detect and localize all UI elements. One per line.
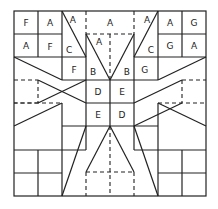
piece-label: A: [47, 18, 54, 28]
quilt-block-diagram: FAAFACAAACAGGAFBBGDEED: [0, 0, 218, 209]
piece-label: D: [119, 110, 126, 120]
piece-label: G: [167, 41, 174, 51]
piece-label: A: [96, 37, 103, 47]
piece-label: E: [95, 110, 101, 120]
piece-label: F: [71, 65, 76, 75]
piece-label: E: [119, 87, 125, 97]
piece-label: A: [167, 18, 174, 28]
piece-label: B: [90, 67, 96, 77]
piece-label: A: [144, 15, 151, 25]
piece-label: C: [66, 45, 72, 55]
piece-label: A: [191, 41, 198, 51]
piece-label: G: [191, 18, 198, 28]
piece-label: D: [95, 87, 102, 97]
piece-label: G: [141, 65, 148, 75]
piece-label: B: [124, 67, 130, 77]
piece-label: A: [23, 41, 30, 51]
piece-label: F: [23, 18, 28, 28]
piece-label: A: [107, 18, 114, 28]
piece-label: F: [47, 42, 52, 52]
piece-label: C: [148, 45, 154, 55]
piece-label: A: [70, 15, 77, 25]
